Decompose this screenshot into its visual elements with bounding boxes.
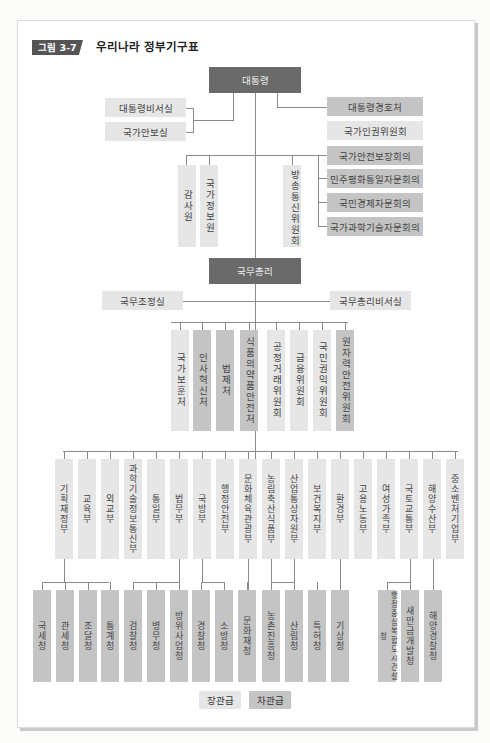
connector [225,451,226,459]
pm-unit: 국민권익위원회 [313,330,331,431]
president-box: 대통령 [209,67,301,93]
figure-title: 우리나라 정부기구표 [96,38,199,54]
connector [183,301,330,302]
prime-minister-box: 국무총리 [209,258,301,284]
connector [88,582,89,590]
connector [201,582,225,583]
agency: 기상청 [331,590,349,682]
ministry: 통일부 [147,459,165,559]
ministry: 국방부 [193,459,211,559]
ministry: 기획재정부 [55,459,73,559]
agency: 방위사업청 [170,590,188,682]
connector [322,322,323,330]
connector [179,451,180,459]
connector [42,582,43,590]
connector [224,582,225,590]
ministry: 외교부 [101,459,119,559]
connector [193,120,234,121]
right-unit-2: 국가안전보장회의 [327,146,423,165]
ministry: 법무부 [170,459,188,559]
connector [249,322,250,330]
pm-unit: 금융위원회 [290,330,308,431]
connector [186,155,187,165]
connector [271,582,272,590]
connector [271,451,272,459]
connector [277,107,327,108]
national-intelligence-service: 국가정보원 [200,165,218,247]
board-of-audit: 감사원 [178,165,196,247]
agency: 문화재청 [238,590,256,682]
right-unit-0: 대통령경호처 [327,97,423,116]
connector [455,451,456,459]
connector [202,451,203,459]
agency: 경찰청 [192,590,210,682]
agency: 특허청 [308,590,326,682]
connector [156,451,157,459]
connector [340,451,341,459]
connector [64,559,65,582]
connector [318,155,319,227]
ministry: 농림축산식품부 [262,459,280,559]
ministry: 국토교통부 [400,459,418,559]
communications-commission: 방송통신위원회 [283,165,301,247]
connector [271,582,295,583]
pm-unit: 원자력안전위원회 [336,330,354,431]
ministry: 여성가족부 [377,459,395,559]
right-unit-3: 민주평화통일자문회의 [327,169,423,188]
ministry: 보건복지부 [308,459,326,559]
office-pm-secretariat: 국무총리비서실 [330,291,411,310]
figure-tag: 그림 3-7 [32,40,83,55]
right-unit-4: 국민경제자문회의 [327,193,423,212]
connector [271,559,272,582]
connector [410,582,411,590]
connector [193,108,194,132]
connector [248,451,249,459]
connector [363,451,364,459]
connector [255,93,256,258]
connector [110,451,111,459]
connector [202,322,203,330]
connector [317,451,318,459]
connector [410,559,411,582]
agency: 새만금개발청 [401,590,419,682]
office-president-secretariat: 대통령비서실 [105,98,186,117]
connector [133,582,180,583]
ministry: 환경부 [331,459,349,559]
connector [317,582,318,590]
connector [201,582,202,590]
legend-vice-minister-level: 차관급 [249,691,291,709]
office-government-policy: 국무조정실 [102,291,183,310]
connector [64,451,65,459]
connector [225,322,226,330]
legend-minister-level: 장관급 [199,691,241,709]
connector [292,155,293,165]
connector [294,582,295,590]
connector [387,582,411,583]
connector [318,202,327,203]
connector [42,582,109,583]
connector [202,559,203,582]
agency: 병무청 [147,590,165,682]
connector [248,559,249,590]
ministry: 교육부 [78,459,96,559]
agency: 농촌진흥청 [262,590,280,682]
connector [179,559,180,582]
agency: 조달청 [79,590,97,682]
connector [318,178,327,179]
connector [156,582,157,590]
connector [133,451,134,459]
agency: 검찰청 [124,590,142,682]
connector [186,132,194,133]
connector [233,93,234,120]
agency: 해양경찰청 [424,590,442,682]
right-unit-5: 국가과학기술자문회의 [327,217,423,236]
connector [409,451,410,459]
pm-unit: 식품의약품안전처 [240,330,258,431]
connector [186,155,327,156]
connector [345,322,346,330]
agency: 관세청 [56,590,74,682]
ministry: 산업통상자원부 [285,459,303,559]
connector [294,559,295,582]
connector [209,155,210,165]
connector [63,451,458,452]
